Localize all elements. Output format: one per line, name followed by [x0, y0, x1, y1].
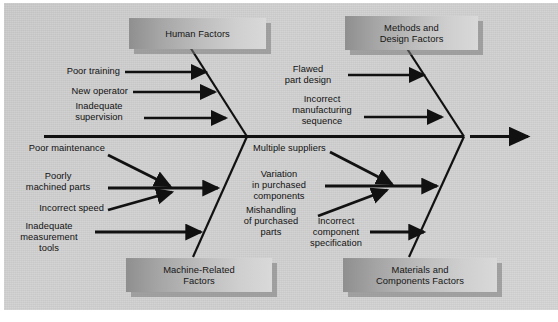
fishbone-diagram-figure: Human Factors Methods and Design Factors… [0, 0, 558, 322]
cause-label-incorrect-manufacturing-sequence: Incorrect manufacturing sequence [283, 94, 361, 127]
cause-label-flawed-part-design: Flawed part design [272, 64, 344, 86]
cause-label-poor-training: Poor training [22, 66, 120, 77]
category-label-machine-related-factors: Machine-Related Factors [163, 264, 235, 287]
cause-label-multiple-suppliers: Multiple suppliers [253, 143, 357, 154]
cause-label-variation-in-purchased-components: Variation in purchased components [237, 169, 321, 202]
arrow-incorrect-speed [108, 192, 172, 210]
cause-label-poor-maintenance: Poor maintenance [6, 143, 105, 154]
arrow-poor-maintenance [108, 155, 170, 186]
arrow-multiple-suppliers [330, 152, 392, 184]
cause-label-mishandling-of-purchased-parts: Mishandling of purchased parts [228, 205, 314, 238]
category-box-human-factors[interactable]: Human Factors [129, 18, 266, 49]
cause-label-new-operator: New operator [30, 86, 128, 97]
cause-label-incorrect-speed: Incorrect speed [14, 203, 104, 214]
arrow-mishandling-of-purchased-parts [318, 190, 387, 216]
category-label-methods-and-design-factors: Methods and Design Factors [380, 22, 444, 45]
rib-methods-and-design-factors [406, 47, 464, 137]
cause-label-incorrect-component-specification: Incorrect component specification [303, 216, 369, 249]
category-box-methods-and-design-factors[interactable]: Methods and Design Factors [345, 16, 478, 50]
category-label-human-factors: Human Factors [165, 28, 230, 39]
cause-label-inadequate-measurement-tools: Inadequate measurement tools [8, 221, 90, 254]
category-label-materials-and-components-factors: Materials and Components Factors [376, 264, 464, 287]
category-box-machine-related-factors[interactable]: Machine-Related Factors [126, 258, 272, 292]
category-box-materials-and-components-factors[interactable]: Materials and Components Factors [343, 258, 497, 292]
cause-label-poorly-machined-parts: Poorly machined parts [12, 171, 104, 193]
cause-label-inadequate-supervision: Inadequate supervision [58, 101, 140, 123]
rib-materials-and-components-factors [409, 137, 464, 258]
